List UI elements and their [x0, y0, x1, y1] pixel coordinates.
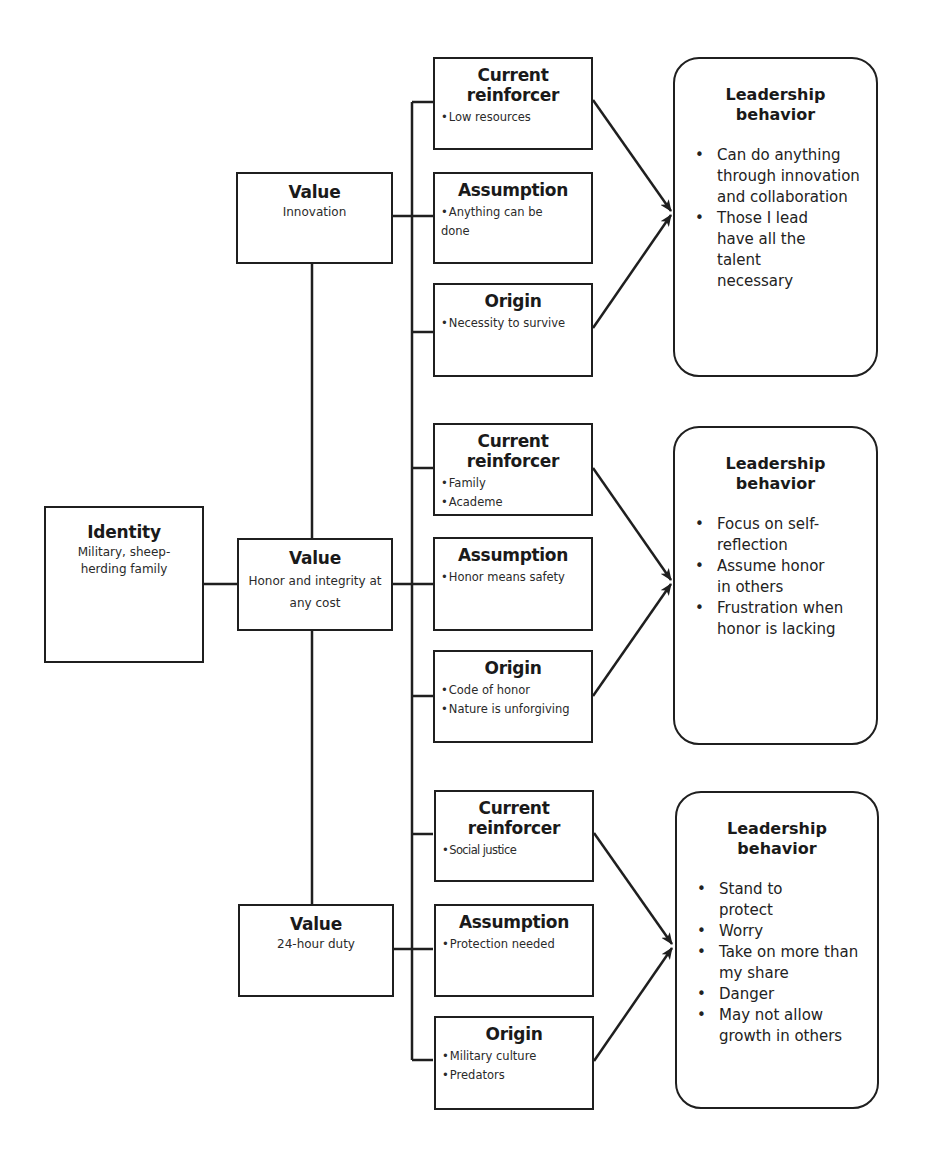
leadership-title: Leadership behavior — [675, 85, 876, 125]
leadership-list: Focus on self-reflection Assume honor in… — [675, 514, 876, 640]
list-item: Worry — [695, 921, 867, 942]
leadership-title: Leadership behavior — [675, 454, 876, 494]
value-text: Honor and integrity at any cost — [239, 570, 391, 614]
list-item: Protection needed — [442, 935, 592, 954]
value-box-honor: Value Honor and integrity at any cost — [237, 538, 393, 631]
origin-list: Code of honor Nature is unforgiving — [435, 681, 591, 719]
list-item: May not allow growth in others — [695, 1005, 867, 1047]
origin-title: Origin — [435, 658, 591, 678]
origin-list: Necessity to survive — [435, 314, 591, 333]
leadership-title: Leadership behavior — [677, 819, 877, 859]
leadership-behavior-box: Leadership behavior Focus on self-reflec… — [673, 426, 878, 745]
leadership-list: Can do anything through innovation and c… — [675, 145, 876, 292]
list-item: Anything can be done — [441, 203, 571, 241]
list-item: Necessity to survive — [441, 314, 591, 333]
list-item: Focus on self-reflection — [693, 514, 866, 556]
value-text: Innovation — [238, 204, 391, 221]
value-box-duty: Value 24-hour duty — [238, 904, 394, 997]
identity-title: Identity — [46, 522, 202, 542]
list-item: Danger — [695, 984, 867, 1005]
value-title: Value — [238, 182, 391, 202]
list-item: Academe — [441, 493, 591, 512]
assumption-title: Assumption — [436, 912, 592, 932]
origin-list: Military culture Predators — [436, 1047, 592, 1085]
value-title: Value — [239, 548, 391, 568]
value-title: Value — [240, 914, 392, 934]
current-reinforcer-title: Current reinforcer — [436, 798, 592, 838]
list-item: Nature is unforgiving — [441, 700, 591, 719]
current-reinforcer-title: Current reinforcer — [435, 431, 591, 471]
identity-text: Military, sheep-herding family — [46, 544, 202, 578]
assumption-title: Assumption — [435, 180, 591, 200]
list-item: Family — [441, 474, 591, 493]
list-item: Social justice — [442, 841, 592, 860]
assumption-list: Honor means safety — [435, 568, 591, 587]
list-item: Low resources — [441, 108, 591, 127]
value-box-innovation: Value Innovation — [236, 172, 393, 264]
current-reinforcer-list: Family Academe — [435, 474, 591, 512]
list-item: Military culture — [442, 1047, 592, 1066]
origin-box: Origin Necessity to survive — [433, 283, 593, 377]
list-item: Code of honor — [441, 681, 591, 700]
list-item: Stand to protect — [695, 879, 867, 921]
list-item: Frustration when honor is lacking — [693, 598, 866, 640]
list-item: Those I lead have all the talent necessa… — [693, 208, 866, 292]
current-reinforcer-box: Current reinforcer Family Academe — [433, 423, 593, 516]
assumption-box: Assumption Honor means safety — [433, 537, 593, 631]
list-item: Take on more than my share — [695, 942, 867, 984]
assumption-list: Protection needed — [436, 935, 592, 954]
origin-box: Origin Code of honor Nature is unforgivi… — [433, 650, 593, 743]
origin-title: Origin — [436, 1024, 592, 1044]
origin-box: Origin Military culture Predators — [434, 1016, 594, 1110]
assumption-box: Assumption Anything can be done — [433, 172, 593, 264]
list-item: Honor means safety — [441, 568, 591, 587]
list-item: Predators — [442, 1066, 592, 1085]
assumption-list: Anything can be done — [435, 203, 591, 241]
leadership-list: Stand to protect Worry Take on more than… — [677, 879, 877, 1047]
list-item: Assume honor in others — [693, 556, 866, 598]
value-text: 24-hour duty — [240, 936, 392, 953]
current-reinforcer-box: Current reinforcer Social justice — [434, 790, 594, 882]
leadership-behavior-box: Leadership behavior Stand to protect Wor… — [675, 791, 879, 1109]
current-reinforcer-box: Current reinforcer Low resources — [433, 57, 593, 150]
current-reinforcer-list: Low resources — [435, 108, 591, 127]
leadership-behavior-box: Leadership behavior Can do anything thro… — [673, 57, 878, 377]
identity-box: Identity Military, sheep-herding family — [44, 506, 204, 663]
assumption-title: Assumption — [435, 545, 591, 565]
list-item: Can do anything through innovation and c… — [693, 145, 866, 208]
current-reinforcer-list: Social justice — [436, 841, 592, 860]
current-reinforcer-title: Current reinforcer — [435, 65, 591, 105]
assumption-box: Assumption Protection needed — [434, 904, 594, 997]
origin-title: Origin — [435, 291, 591, 311]
